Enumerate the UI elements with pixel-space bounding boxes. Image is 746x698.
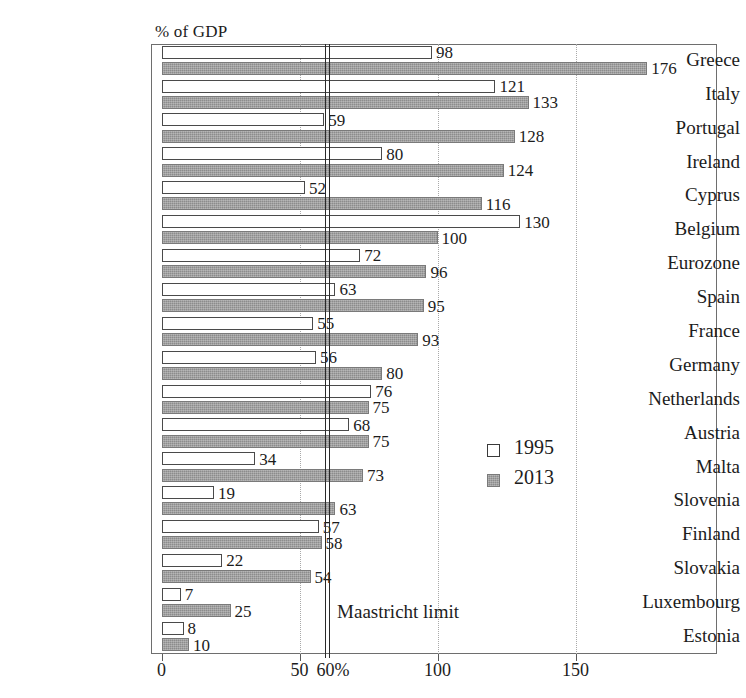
x-tick-label-150: 150	[562, 660, 589, 681]
bar-slovakia-1995[interactable]	[162, 554, 223, 567]
bar-malta-2013[interactable]	[162, 469, 363, 482]
chart-row: Slovakia	[0, 552, 746, 586]
category-label-germany: Germany	[600, 354, 746, 376]
bar-spain-1995[interactable]	[162, 283, 336, 296]
bar-value-austria-2013: 75	[373, 433, 390, 450]
x-tick-label-0: 0	[157, 660, 166, 681]
bar-belgium-2013[interactable]	[162, 231, 438, 244]
bar-value-italy-1995: 121	[499, 78, 525, 95]
maastricht-limit-label: Maastricht limit	[337, 601, 459, 623]
bar-value-slovakia-1995: 22	[226, 552, 243, 569]
bar-ireland-2013[interactable]	[162, 164, 504, 177]
axis-title: % of GDP	[155, 22, 227, 42]
bar-slovenia-1995[interactable]	[162, 486, 214, 499]
bar-value-portugal-1995: 59	[328, 112, 345, 129]
bar-estonia-1995[interactable]	[162, 622, 184, 635]
bar-value-germany-2013: 80	[386, 365, 403, 382]
bar-value-spain-1995: 63	[339, 281, 356, 298]
x-tick-label-50: 50	[291, 660, 309, 681]
bar-value-cyprus-1995: 52	[309, 180, 326, 197]
bar-slovenia-2013[interactable]	[162, 502, 336, 515]
bar-value-ireland-1995: 80	[386, 146, 403, 163]
category-label-ireland: Ireland	[600, 151, 746, 173]
category-label-slovenia: Slovenia	[600, 489, 746, 511]
bar-estonia-2013[interactable]	[162, 638, 190, 651]
bar-germany-2013[interactable]	[162, 367, 383, 380]
gdp-debt-bar-chart: % of GDP Greece98176Italy121133Portugal5…	[0, 0, 746, 698]
category-label-finland: Finland	[600, 523, 746, 545]
bar-netherlands-1995[interactable]	[162, 385, 372, 398]
bar-slovakia-2013[interactable]	[162, 570, 311, 583]
bar-value-estonia-1995: 8	[188, 620, 197, 637]
bar-value-slovenia-1995: 19	[218, 485, 235, 502]
bar-value-luxembourg-1995: 7	[185, 586, 194, 603]
bar-greece-2013[interactable]	[162, 62, 648, 75]
category-label-estonia: Estonia	[600, 625, 746, 647]
bar-value-spain-2013: 95	[428, 298, 445, 315]
bar-ireland-1995[interactable]	[162, 147, 383, 160]
bar-france-2013[interactable]	[162, 333, 419, 346]
bar-cyprus-1995[interactable]	[162, 181, 306, 194]
bar-value-greece-1995: 98	[436, 44, 453, 61]
category-label-portugal: Portugal	[600, 117, 746, 139]
chart-row: Slovenia	[0, 485, 746, 519]
bar-value-malta-2013: 73	[367, 467, 384, 484]
legend-swatch-1995-icon	[487, 444, 500, 457]
bar-value-italy-2013: 133	[533, 94, 559, 111]
x-tick-label-100: 100	[424, 660, 451, 681]
bar-luxembourg-1995[interactable]	[162, 588, 181, 601]
category-label-eurozone: Eurozone	[600, 252, 746, 274]
legend-label-1995: 1995	[514, 436, 554, 459]
bar-value-eurozone-1995: 72	[364, 247, 381, 264]
category-label-spain: Spain	[600, 286, 746, 308]
legend-swatch-2013-icon	[487, 474, 500, 487]
bar-value-cyprus-2013: 116	[486, 196, 511, 213]
bar-value-belgium-2013: 100	[442, 230, 468, 247]
category-label-cyprus: Cyprus	[600, 184, 746, 206]
bar-luxembourg-2013[interactable]	[162, 604, 231, 617]
chart-row: Estonia	[0, 620, 746, 654]
bar-value-belgium-1995: 130	[524, 214, 550, 231]
bar-finland-2013[interactable]	[162, 536, 322, 549]
bar-portugal-2013[interactable]	[162, 130, 515, 143]
bar-malta-1995[interactable]	[162, 452, 256, 465]
maastricht-limit-line	[325, 44, 330, 658]
category-label-malta: Malta	[600, 456, 746, 478]
category-label-italy: Italy	[600, 83, 746, 105]
bar-netherlands-2013[interactable]	[162, 401, 369, 414]
bar-value-france-2013: 93	[422, 332, 439, 349]
bar-eurozone-2013[interactable]	[162, 265, 427, 278]
bar-austria-2013[interactable]	[162, 435, 369, 448]
bar-eurozone-1995[interactable]	[162, 249, 361, 262]
bar-belgium-1995[interactable]	[162, 215, 521, 228]
bar-spain-2013[interactable]	[162, 299, 424, 312]
category-label-slovakia: Slovakia	[600, 557, 746, 579]
bar-value-greece-2013: 176	[651, 60, 677, 77]
chart-row: Finland	[0, 518, 746, 552]
bar-austria-1995[interactable]	[162, 418, 350, 431]
bar-portugal-1995[interactable]	[162, 113, 325, 126]
category-label-belgium: Belgium	[600, 218, 746, 240]
bar-germany-1995[interactable]	[162, 351, 317, 364]
bar-value-portugal-2013: 128	[519, 128, 545, 145]
bar-greece-1995[interactable]	[162, 46, 432, 59]
category-label-luxembourg: Luxembourg	[600, 591, 746, 613]
bar-italy-2013[interactable]	[162, 96, 529, 109]
bar-france-1995[interactable]	[162, 317, 314, 330]
bar-value-netherlands-2013: 75	[373, 399, 390, 416]
x-tick-label-60-percent: 60%	[317, 660, 350, 681]
bar-value-luxembourg-2013: 25	[235, 603, 252, 620]
legend-label-2013: 2013	[514, 466, 554, 489]
category-label-france: France	[600, 320, 746, 342]
category-label-netherlands: Netherlands	[600, 388, 746, 410]
bar-cyprus-2013[interactable]	[162, 197, 482, 210]
bar-value-austria-1995: 68	[353, 417, 370, 434]
bar-value-estonia-2013: 10	[193, 637, 210, 654]
category-label-austria: Austria	[600, 422, 746, 444]
bar-value-malta-1995: 34	[259, 451, 276, 468]
bar-value-eurozone-2013: 96	[430, 264, 447, 281]
bar-value-ireland-2013: 124	[508, 162, 534, 179]
bar-finland-1995[interactable]	[162, 520, 319, 533]
bar-value-slovenia-2013: 63	[339, 501, 356, 518]
